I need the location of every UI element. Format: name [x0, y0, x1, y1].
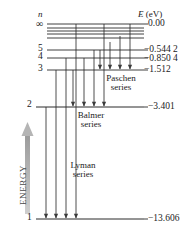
series-label-lyman-line2: series [73, 169, 94, 179]
arrowhead-lyman-4 [74, 214, 78, 219]
level-label-n-infinity: ∞ [36, 19, 43, 29]
energy-value-n-3: −1.512 [144, 65, 171, 75]
level-label-n-1: 1 [27, 213, 32, 223]
arrowhead-balmer-3 [92, 102, 96, 107]
series-label-paschen: Paschen series [98, 74, 144, 93]
level-label-n-2: 2 [27, 100, 32, 110]
arrowhead-lyman-3 [64, 214, 68, 219]
energy-value-n-infinity: 0.00 [148, 19, 165, 29]
level-label-n-4: 4 [38, 52, 43, 62]
hydrogen-energy-level-diagram: n E (eV) ENERGY ∞ 5 4 3 2 1 0.00 −0.544 … [0, 0, 192, 234]
series-label-balmer: Balmer series [68, 111, 114, 130]
energy-value-n-4: −0.850 4 [144, 54, 178, 64]
arrowhead-balmer-1 [71, 102, 75, 107]
arrowhead-paschen-3 [118, 65, 122, 70]
energy-value-n-2: −3.401 [148, 102, 175, 112]
arrowhead-balmer-4 [102, 102, 106, 107]
series-label-paschen-line2: series [111, 82, 132, 92]
energy-value-n-1: −13.606 [148, 214, 179, 224]
arrowhead-balmer-2 [82, 102, 86, 107]
arrowhead-paschen-2 [108, 65, 112, 70]
series-label-balmer-line2: series [81, 119, 102, 129]
arrowhead-paschen-1 [98, 65, 102, 70]
arrowhead-lyman-1 [44, 214, 48, 219]
arrowhead-paschen-4 [128, 65, 132, 70]
level-label-n-3: 3 [38, 64, 43, 74]
series-label-lyman: Lyman series [60, 161, 106, 180]
arrowhead-lyman-2 [54, 214, 58, 219]
